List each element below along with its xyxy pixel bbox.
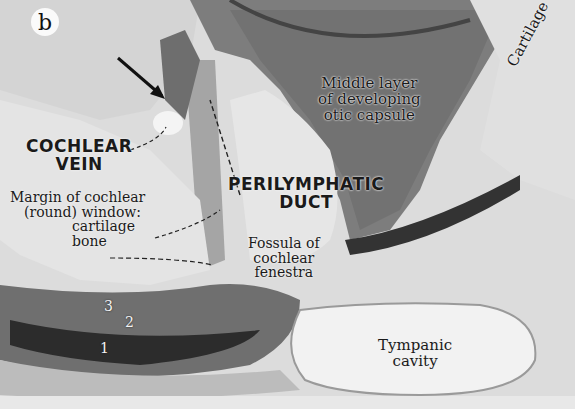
panel-letter: b xyxy=(31,8,59,36)
label-perilymphatic-duct: PERILYMPHATIC DUCT xyxy=(228,176,384,212)
label-margin-round-window: Margin of cochlear (round) window: carti… xyxy=(10,190,145,249)
label-fossula: Fossula of cochlear fenestra xyxy=(248,236,320,280)
layer-number-2: 2 xyxy=(125,314,134,330)
label-middle-layer: Middle layer of developing otic capsule xyxy=(318,76,421,123)
layer-number-3: 3 xyxy=(104,298,113,314)
label-cochlear-vein: COCHLEAR VEIN xyxy=(26,138,132,174)
label-tympanic-cavity: Tympanic cavity xyxy=(378,338,452,370)
layer-number-1: 1 xyxy=(100,340,109,356)
histology-micrograph: b COCHLEAR VEIN PERILYMPHATIC DUCT Middl… xyxy=(0,0,575,409)
